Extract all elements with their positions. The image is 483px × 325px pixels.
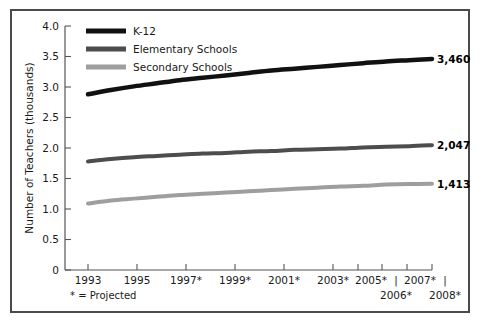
y-tick-label-0: 0 — [52, 264, 59, 276]
x-tick-label-1997: 1997* — [170, 274, 202, 286]
x-tick-label-1993: 1993 — [75, 274, 102, 286]
y-tick-label-3.0: 3.0 — [42, 81, 59, 93]
series-line-secondary-schools — [88, 184, 432, 204]
x-tick-connector-2006: | — [394, 274, 398, 287]
x-tick-label-2006: 2006* — [380, 289, 412, 301]
y-tick-label-2.0: 2.0 — [42, 142, 59, 154]
end-label-k12: 3,460 — [437, 53, 470, 65]
y-tick-label-3.5: 3.5 — [42, 50, 59, 62]
x-tick-connector-2008: | — [443, 274, 447, 287]
series-line-elementary-schools — [88, 145, 432, 161]
end-label-elementary-schools: 2,047 — [437, 139, 470, 151]
y-tick-label-1.0: 1.0 — [42, 203, 59, 215]
footnote-projected: * = Projected — [70, 290, 136, 301]
y-tick-label-0.5: 0.5 — [42, 233, 59, 245]
legend-swatch-elementary-schools — [86, 47, 126, 52]
y-tick-label-1.5: 1.5 — [42, 172, 59, 184]
x-tick-label-2005: 2005* — [355, 274, 387, 286]
x-tick-label-1995: 1995 — [124, 274, 151, 286]
x-tick-label-2003: 2003* — [317, 274, 349, 286]
x-tick-label-1999: 1999* — [219, 274, 251, 286]
x-tick-label-2008: 2008* — [429, 289, 461, 301]
y-tick-label-4.0: 4.0 — [42, 20, 59, 32]
legend-swatch-k12 — [86, 29, 126, 34]
x-tick-marks — [88, 264, 432, 270]
end-label-secondary-schools: 1,413 — [437, 178, 470, 190]
legend-label-secondary-schools: Secondary Schools — [133, 61, 232, 73]
line-chart: 4.0 3.5 3.0 2.5 2.0 1.5 1.0 0.5 0 Number… — [0, 0, 483, 325]
y-tick-label-2.5: 2.5 — [42, 111, 59, 123]
legend: K-12 Elementary Schools Secondary School… — [86, 25, 237, 73]
legend-label-k12: K-12 — [133, 25, 156, 37]
y-axis-title: Number of Teachers (thousands) — [23, 62, 35, 233]
y-tick-marks — [65, 26, 71, 270]
legend-swatch-secondary-schools — [86, 65, 126, 70]
legend-label-elementary-schools: Elementary Schools — [133, 43, 237, 55]
figure-container: 4.0 3.5 3.0 2.5 2.0 1.5 1.0 0.5 0 Number… — [0, 0, 483, 325]
x-tick-label-2007: 2007* — [404, 274, 436, 286]
x-tick-label-2001: 2001* — [268, 274, 300, 286]
